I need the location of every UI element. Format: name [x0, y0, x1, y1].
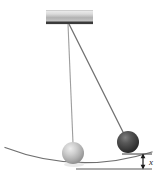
dimension-label-x: x	[148, 157, 153, 167]
string-displaced-position	[69, 24, 125, 135]
height-dimension-arrow	[141, 154, 146, 170]
bob-light-rest	[62, 142, 84, 167]
ceiling-block-bottom-edge	[46, 22, 93, 25]
figure-canvas: x	[0, 0, 161, 179]
bob-light-sphere	[62, 142, 84, 164]
ceiling-block	[46, 10, 93, 24]
bob-dark-sphere	[117, 131, 139, 153]
bob-dark-displaced	[117, 131, 139, 153]
physics-figure: x	[0, 0, 161, 179]
ceiling-block-top-edge	[46, 10, 93, 11]
string-rest-position	[68, 24, 73, 143]
